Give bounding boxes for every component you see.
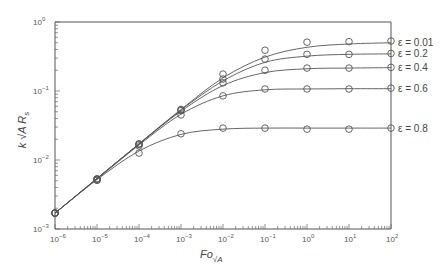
y-tick-label: 10−2 bbox=[33, 154, 49, 165]
axis-ticks bbox=[55, 22, 391, 229]
log-log-chart: 10−610−510−410−310−210−110010110210−310−… bbox=[0, 0, 440, 272]
legend-label: ε = 0.8 bbox=[398, 123, 428, 134]
data-point-marker bbox=[262, 47, 269, 54]
data-point-marker bbox=[304, 65, 311, 72]
x-tick-label: 10−6 bbox=[50, 233, 66, 244]
y-tick-label: 10−3 bbox=[33, 223, 49, 234]
data-point-marker bbox=[346, 126, 353, 133]
x-tick-label: 101 bbox=[344, 233, 357, 244]
data-point-marker bbox=[262, 86, 269, 93]
legend-label: ε = 0.6 bbox=[398, 83, 428, 94]
x-tick-label: 10−4 bbox=[134, 233, 150, 244]
plot-frame bbox=[55, 22, 391, 229]
series-curve bbox=[55, 128, 391, 213]
x-tick-label: 10−2 bbox=[218, 233, 234, 244]
x-tick-label: 102 bbox=[386, 233, 399, 244]
y-tick-label: 100 bbox=[33, 16, 46, 27]
legend-label: ε = 0.01 bbox=[398, 37, 434, 48]
plot-border bbox=[55, 22, 391, 229]
series-curve bbox=[55, 89, 391, 213]
series-curves bbox=[55, 43, 391, 213]
y-tick-label: 10−1 bbox=[33, 85, 49, 96]
data-point-marker bbox=[304, 126, 311, 133]
x-tick-label: 10−1 bbox=[260, 233, 276, 244]
x-tick-label: 100 bbox=[302, 233, 315, 244]
legend-label: ε = 0.4 bbox=[398, 62, 428, 73]
legend-label: ε = 0.2 bbox=[398, 48, 428, 59]
x-axis-label: Fo√A bbox=[200, 248, 223, 264]
x-tick-label: 10−3 bbox=[176, 233, 192, 244]
y-axis-label: k √A Rs bbox=[16, 112, 31, 149]
x-tick-label: 10−5 bbox=[92, 233, 108, 244]
data-point-marker bbox=[220, 125, 227, 132]
series-curve bbox=[55, 68, 391, 213]
data-point-marker bbox=[304, 51, 311, 58]
data-point-marker bbox=[304, 39, 311, 46]
series-markers bbox=[52, 38, 395, 217]
inline-legend: ε = 0.01ε = 0.2ε = 0.4ε = 0.6ε = 0.8 bbox=[398, 37, 434, 133]
